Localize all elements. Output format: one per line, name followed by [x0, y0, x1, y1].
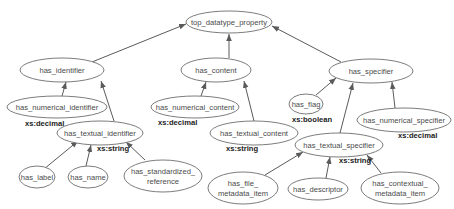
node-label: has_identifier — [39, 66, 85, 75]
node-has-specifier: has_specifier — [329, 59, 413, 83]
edge-has-identifier-to-top — [92, 24, 186, 62]
node-label: has_numerical_specifier — [363, 116, 445, 125]
edge-has-specifier-to-top — [272, 26, 341, 62]
node-label: has_flag — [292, 100, 321, 109]
edge-file-metadata-to-textual-specifier — [265, 152, 303, 175]
node-has-numerical-identifier: has_numerical_identifier — [7, 96, 107, 118]
node-has-textual-content: has_textual_content — [210, 121, 298, 145]
node-label: has_textual_specifier — [303, 141, 375, 150]
node-has-textual-identifier: has_textual_identifier — [57, 121, 143, 145]
node-has-name: has_name — [68, 166, 108, 188]
node-label-line1: has_standardized_ — [131, 167, 196, 176]
node-has-textual-specifier: has_textual_specifier — [295, 133, 383, 157]
edge-descriptor-to-textual-specifier — [326, 157, 330, 178]
node-label: has_label — [21, 173, 54, 182]
edge-textual-identifier-to-identifier — [101, 81, 114, 121]
edge-flag-to-specifier — [316, 78, 336, 95]
type-label-textual-content: xs:string — [226, 144, 258, 153]
node-label: has_numerical_content — [156, 103, 235, 112]
edge-name-to-textual-identifier — [86, 145, 91, 166]
type-label-textual-specifier: xs:string — [339, 156, 371, 165]
node-label: has_name — [70, 173, 105, 182]
node-label: has_descriptor — [293, 185, 343, 194]
node-has-content: has_content — [181, 58, 251, 82]
node-has-standardized-reference: has_standardized_ reference — [124, 160, 202, 192]
type-label-numerical-specifier: xs:decimal — [398, 131, 437, 140]
edge-label-to-textual-identifier — [44, 141, 78, 169]
node-label-line2: metadata_item — [375, 189, 425, 198]
node-label-line1: has_contextual_ — [372, 179, 428, 188]
node-has-numerical-content: has_numerical_content — [151, 96, 239, 118]
type-label-numerical-content: xs:decimal — [158, 118, 197, 127]
node-label: top_datatype_property — [191, 18, 267, 27]
type-label-textual-identifier: xs:string — [97, 144, 129, 153]
node-label: has_numerical_identifier — [16, 103, 99, 112]
edge-numerical-content-to-content — [201, 82, 206, 96]
edge-textual-content-to-content — [244, 81, 254, 121]
edge-textual-specifier-to-specifier — [340, 83, 353, 133]
node-has-numerical-specifier: has_numerical_specifier — [357, 108, 451, 132]
node-has-contextual-metadata-item: has_contextual_ metadata_item — [361, 172, 439, 204]
node-has-label: has_label — [19, 166, 55, 188]
node-label-line2: metadata_item — [218, 189, 268, 198]
node-label: has_specifier — [349, 67, 394, 76]
edge-numerical-identifier-to-identifier — [62, 82, 66, 96]
type-label-flag: xs:boolean — [292, 115, 332, 124]
node-has-flag: has_flag — [289, 94, 323, 114]
node-label-line1: has_file_ — [228, 179, 259, 188]
node-label: has_content — [195, 66, 237, 75]
node-has-identifier: has_identifier — [20, 58, 104, 82]
node-label-line2: reference — [147, 177, 179, 186]
node-label: has_textual_content — [220, 129, 289, 138]
node-top-datatype-property: top_datatype_property — [186, 11, 272, 33]
node-label: has_textual_identifier — [64, 129, 136, 138]
node-has-file-metadata-item: has_file_ metadata_item — [208, 172, 278, 204]
edge-numerical-specifier-to-specifier — [392, 82, 395, 108]
type-label-numerical-identifier: xs:decimal — [25, 119, 64, 128]
node-has-descriptor: has_descriptor — [288, 178, 348, 200]
property-hierarchy-diagram: top_datatype_property has_identifier has… — [0, 0, 454, 209]
